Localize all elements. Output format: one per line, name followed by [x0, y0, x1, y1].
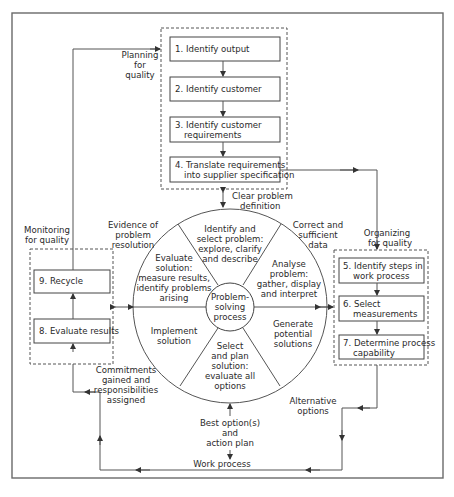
label-correct-sufficient-data: Correct and sufficient data	[293, 220, 343, 250]
svg-text:Evidence of: Evidence of	[108, 220, 159, 230]
segment-analyse-problem: Analyse problem: gather, display and int…	[257, 259, 321, 299]
svg-text:data: data	[308, 240, 327, 250]
svg-text:solutions: solutions	[274, 339, 313, 349]
label-alternative-options: Alternative options	[289, 396, 336, 416]
svg-text:measurements: measurements	[353, 309, 418, 319]
svg-text:solving: solving	[215, 302, 246, 312]
svg-text:3. Identify customer: 3. Identify customer	[175, 120, 262, 130]
svg-text:Organizing: Organizing	[364, 228, 411, 238]
segment-implement-solution: Implement solution	[151, 326, 198, 346]
svg-text:capability: capability	[353, 348, 395, 358]
svg-text:into supplier specification: into supplier specification	[184, 170, 295, 180]
svg-text:action plan: action plan	[206, 438, 254, 448]
svg-text:arising: arising	[160, 293, 189, 303]
svg-text:Correct and: Correct and	[293, 220, 343, 230]
segment-identify-problem: Identify and select problem: explore, cl…	[197, 224, 264, 264]
svg-text:2. Identify customer: 2. Identify customer	[175, 84, 262, 94]
label-evidence-of-resolution: Evidence of problem resolution	[108, 220, 159, 250]
svg-text:evaluate all: evaluate all	[205, 371, 255, 381]
svg-text:4. Translate requirements: 4. Translate requirements	[175, 160, 286, 170]
svg-text:sufficient: sufficient	[298, 230, 338, 240]
svg-text:8. Evaluate results: 8. Evaluate results	[39, 326, 120, 336]
svg-text:responsibilities: responsibilities	[94, 385, 159, 395]
planning-label: Planning for quality	[121, 50, 158, 80]
svg-text:resolution: resolution	[112, 240, 155, 250]
svg-text:Commitments: Commitments	[96, 365, 157, 375]
svg-text:solution:: solution:	[156, 263, 193, 273]
svg-text:and plan: and plan	[211, 351, 248, 361]
svg-text:options: options	[297, 406, 329, 416]
svg-text:Clear problem: Clear problem	[232, 191, 293, 201]
organizing-label: Organizing for quality	[364, 228, 412, 248]
svg-text:7. Determine process: 7. Determine process	[343, 338, 436, 348]
svg-text:explore, clarify: explore, clarify	[198, 244, 262, 254]
label-work-process: Work process	[193, 459, 251, 469]
svg-text:solution:: solution:	[212, 361, 249, 371]
step-7-determine-capability: 7. Determine process capability	[339, 335, 436, 359]
svg-text:Select: Select	[217, 341, 244, 351]
svg-text:gained and: gained and	[102, 375, 150, 385]
svg-text:Identify and: Identify and	[204, 224, 255, 234]
svg-text:work process: work process	[353, 271, 410, 281]
svg-text:Alternative: Alternative	[289, 396, 336, 406]
svg-text:Planning: Planning	[121, 50, 158, 60]
label-best-option-action-plan: Best option(s) and action plan	[200, 418, 260, 448]
svg-text:Problem-: Problem-	[211, 292, 249, 302]
label-clear-problem-definition: Clear problem definition	[232, 191, 293, 211]
wheel-center-label: Problem- solving process	[211, 292, 249, 322]
svg-text:requirements: requirements	[184, 130, 242, 140]
svg-text:9. Recycle: 9. Recycle	[39, 276, 83, 286]
step-4-translate-requirements: 4. Translate requirements into supplier …	[170, 157, 295, 182]
svg-text:identify problems: identify problems	[136, 283, 212, 293]
monitoring-label: Monitoring for quality	[24, 225, 70, 245]
segment-evaluate-solution: Evaluate solution: measure results, iden…	[136, 253, 212, 303]
step-1-identify-output: 1. Identify output	[170, 37, 280, 61]
svg-text:Best option(s): Best option(s)	[200, 418, 260, 428]
quality-process-diagram: Planning for quality 1. Identify output …	[0, 0, 454, 497]
svg-text:problem: problem	[115, 230, 151, 240]
svg-text:gather, display: gather, display	[257, 279, 321, 289]
svg-text:quality: quality	[125, 70, 154, 80]
svg-text:and: and	[222, 428, 238, 438]
svg-text:solution: solution	[157, 336, 191, 346]
segment-generate-solutions: Generate potential solutions	[273, 319, 313, 349]
segment-select-plan-solution: Select and plan solution: evaluate all o…	[205, 341, 255, 391]
label-commitments-gained: Commitments gained and responsibilities …	[94, 365, 159, 405]
svg-text:process: process	[213, 312, 247, 322]
svg-text:for: for	[134, 60, 146, 70]
svg-text:definition: definition	[240, 201, 280, 211]
svg-text:Analyse: Analyse	[272, 259, 306, 269]
step-6-select-measurements: 6. Select measurements	[339, 296, 424, 321]
monitoring-group-border	[30, 249, 113, 364]
step-8-evaluate-results: 8. Evaluate results	[34, 319, 120, 343]
svg-text:for quality: for quality	[368, 238, 412, 248]
svg-text:potential: potential	[274, 329, 312, 339]
svg-text:assigned: assigned	[107, 395, 145, 405]
svg-text:select problem:: select problem:	[197, 234, 264, 244]
step-5-identify-steps: 5. Identify steps in work process	[339, 258, 424, 283]
svg-text:Evaluate: Evaluate	[155, 253, 193, 263]
svg-text:5. Identify steps in: 5. Identify steps in	[343, 261, 423, 271]
svg-text:measure results,: measure results,	[138, 273, 210, 283]
svg-text:and describe: and describe	[202, 254, 258, 264]
svg-text:options: options	[214, 381, 246, 391]
svg-text:problem:: problem:	[270, 269, 308, 279]
svg-text:Monitoring: Monitoring	[24, 225, 70, 235]
svg-text:for quality: for quality	[25, 235, 69, 245]
step-9-recycle: 9. Recycle	[34, 270, 110, 293]
step-2-identify-customer: 2. Identify customer	[170, 77, 280, 101]
svg-text:and interpret: and interpret	[261, 289, 318, 299]
svg-text:6. Select: 6. Select	[343, 299, 381, 309]
svg-text:Generate: Generate	[273, 319, 313, 329]
svg-text:Implement: Implement	[151, 326, 198, 336]
step-3-identify-customer-requirements: 3. Identify customer requirements	[170, 117, 280, 142]
svg-text:1. Identify output: 1. Identify output	[175, 44, 250, 54]
